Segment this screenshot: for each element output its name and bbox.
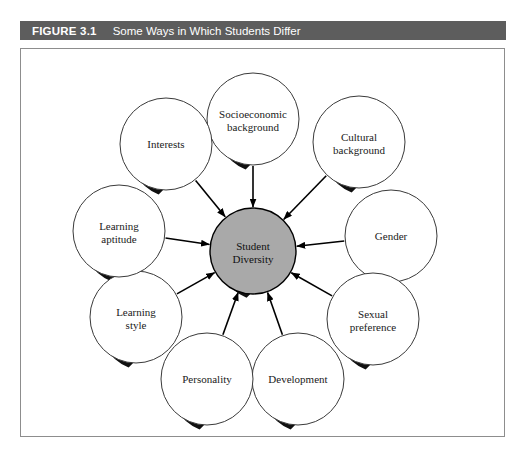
node-interests: Interests — [120, 98, 212, 190]
node-label-socioeconomic-background-line2: background — [227, 121, 279, 133]
node-learning-style: Learningstyle — [90, 271, 182, 363]
node-label-personality: Personality — [182, 373, 232, 385]
node-personality: Personality — [161, 333, 253, 425]
connector-interests — [196, 180, 226, 216]
node-sexual-preference: Sexualpreference — [327, 273, 419, 365]
node-label-cultural-background: Cultural — [341, 131, 377, 143]
node-learning-aptitude: Learningaptitude — [73, 185, 165, 277]
node-development: Development — [252, 333, 344, 425]
node-socioeconomic-background: Socioeconomicbackground — [207, 73, 299, 165]
figure-title-label: Some Ways in Which Students Differ — [113, 25, 301, 37]
node-label-learning-style-line2: style — [126, 319, 147, 331]
hub-label-line2: Diversity — [233, 253, 274, 265]
connector-learning-aptitude — [165, 238, 209, 245]
node-label-learning-aptitude: Learning — [99, 220, 139, 232]
hub-label-line1: Student — [236, 240, 270, 252]
node-label-gender: Gender — [375, 230, 408, 242]
connector-cultural-background — [284, 176, 327, 220]
node-label-learning-style: Learning — [116, 306, 156, 318]
node-gender: Gender — [345, 190, 437, 282]
figure-number-label: FIGURE 3.1 — [32, 25, 97, 37]
connector-gender — [297, 241, 345, 246]
node-label-socioeconomic-background: Socioeconomic — [219, 108, 287, 120]
node-label-sexual-preference: Sexual — [358, 308, 388, 320]
node-label-cultural-background-line2: background — [333, 144, 385, 156]
node-label-sexual-preference-line2: preference — [350, 321, 397, 333]
figure-caption-bar: FIGURE 3.1 Some Ways in Which Students D… — [20, 21, 506, 40]
connector-personality — [223, 292, 238, 334]
node-label-learning-aptitude-line2: aptitude — [101, 233, 137, 245]
figure-frame: SocioeconomicbackgroundCulturalbackgroun… — [20, 48, 505, 437]
hub-node-student-diversity: Student Diversity — [210, 208, 296, 298]
node-cultural-background: Culturalbackground — [313, 96, 405, 188]
student-diversity-diagram: SocioeconomicbackgroundCulturalbackgroun… — [21, 49, 504, 436]
connector-development — [268, 293, 283, 335]
connector-sexual-preference — [291, 273, 332, 296]
node-label-development: Development — [268, 373, 327, 385]
node-label-interests: Interests — [147, 138, 184, 150]
connector-learning-style — [177, 273, 215, 294]
